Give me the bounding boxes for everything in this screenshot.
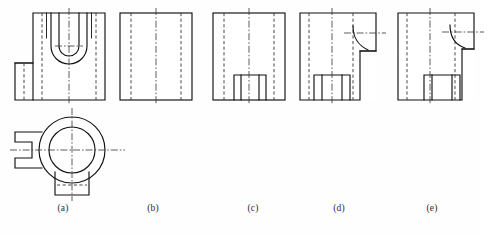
view-d-front	[300, 13, 392, 108]
caption-d: (d)	[319, 203, 359, 213]
view-c-front	[213, 13, 303, 108]
caption-e: (e)	[412, 203, 452, 213]
view-a-front	[15, 8, 115, 103]
caption-a: (a)	[43, 203, 83, 213]
view-b-front	[120, 13, 210, 108]
caption-b: (b)	[133, 203, 173, 213]
view-e-front	[398, 13, 488, 108]
view-a-top	[10, 108, 130, 203]
caption-c: (c)	[233, 203, 273, 213]
